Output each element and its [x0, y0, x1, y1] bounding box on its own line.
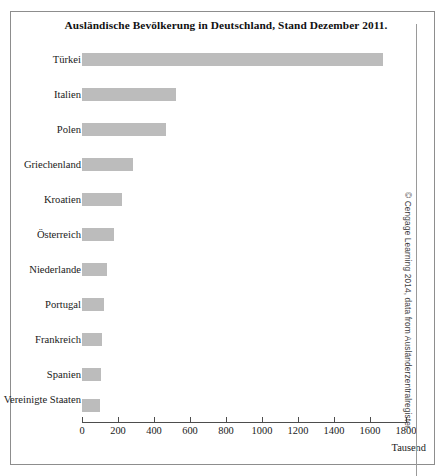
x-axis-tick [82, 417, 83, 423]
plot-area: Türkei Italien Polen Griechenland Kroati… [11, 12, 436, 466]
bar-row: Vereinigte Staaten [11, 398, 436, 428]
bar [82, 399, 100, 412]
x-axis-tick [370, 417, 371, 423]
category-label: Polen [0, 124, 81, 136]
category-label: Italien [0, 89, 81, 101]
category-label: Türkei [0, 54, 81, 66]
chart-figure: Ausländische Bevölkerung in Deutschland,… [10, 11, 435, 465]
credit-text-wrapper: © Cengage Learning 2014, data from Auslä… [390, 12, 420, 476]
x-axis-tick [334, 417, 335, 423]
bar-row: Polen [11, 122, 436, 152]
bar [82, 158, 133, 171]
bar [82, 333, 102, 346]
bar [82, 123, 166, 136]
x-axis-tick [190, 417, 191, 423]
category-label: Kroatien [0, 194, 81, 206]
bar [82, 53, 383, 66]
bar-row: Italien [11, 87, 436, 117]
x-axis-tick [262, 417, 263, 423]
bar-row: Niederlande [11, 262, 436, 292]
bar-row: Spanien [11, 367, 436, 397]
category-label: Österreich [0, 229, 81, 241]
bar [82, 88, 176, 101]
bar [82, 193, 122, 206]
bar-row: Türkei [11, 52, 436, 82]
bar-row: Griechenland [11, 157, 436, 187]
bar-row: Portugal [11, 297, 436, 327]
bar-row: Frankreich [11, 332, 436, 362]
bar [82, 228, 114, 241]
x-axis-tick [298, 417, 299, 423]
bar-row: Kroatien [11, 192, 436, 222]
x-axis-tick [154, 417, 155, 423]
category-label: Griechenland [0, 159, 81, 171]
x-axis-tick [226, 417, 227, 423]
category-label: Niederlande [0, 264, 81, 276]
x-axis-tick [118, 417, 119, 423]
bar [82, 298, 104, 311]
category-label: Vereinigte Staaten [0, 394, 81, 406]
category-label: Spanien [0, 369, 81, 381]
bar-row: Österreich [11, 227, 436, 257]
category-label: Portugal [0, 299, 81, 311]
category-label: Frankreich [0, 334, 81, 346]
bar [82, 263, 107, 276]
bar [82, 368, 101, 381]
credit-text: © Cengage Learning 2014, data from Auslä… [403, 192, 413, 431]
x-axis-line [82, 422, 406, 423]
